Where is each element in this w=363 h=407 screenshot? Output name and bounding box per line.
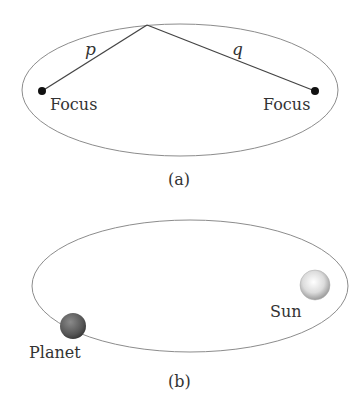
- figure-a-caption: (a): [168, 170, 190, 189]
- sun-label: Sun: [270, 302, 302, 321]
- line-q: [147, 25, 315, 91]
- right-focus-label: Focus: [263, 95, 310, 114]
- figure-b: Sun Planet (b): [29, 220, 348, 391]
- left-focus-label: Focus: [50, 95, 97, 114]
- kepler-orbit-diagram: p q Focus Focus (a) Sun Planet (b): [0, 0, 363, 407]
- figure-b-caption: (b): [168, 372, 191, 391]
- right-focus-dot: [311, 87, 319, 95]
- left-focus-dot: [38, 87, 46, 95]
- figure-a: p q Focus Focus (a): [22, 24, 338, 189]
- label-q: q: [232, 39, 243, 59]
- label-p: p: [85, 39, 96, 59]
- sun: [300, 270, 330, 300]
- planet: [60, 313, 86, 339]
- ellipse-a: [22, 24, 338, 156]
- planet-label: Planet: [29, 343, 81, 362]
